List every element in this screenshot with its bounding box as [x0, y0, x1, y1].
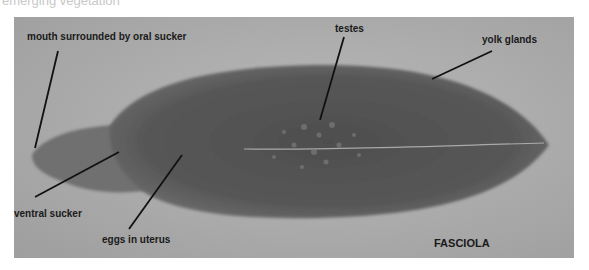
label-testes: testes	[335, 23, 364, 34]
figure-title: FASCIOLA	[434, 237, 490, 249]
fasciola-micrograph: mouth surrounded by oral sucker testes y…	[14, 17, 574, 258]
specimen-illustration	[14, 17, 574, 258]
label-yolk-glands: yolk glands	[482, 34, 537, 45]
label-eggs-in-uterus: eggs in uterus	[102, 234, 170, 245]
label-mouth: mouth surrounded by oral sucker	[27, 31, 186, 42]
label-ventral-sucker: ventral sucker	[14, 208, 82, 219]
cropped-caption: emerging vegetation	[2, 0, 120, 8]
